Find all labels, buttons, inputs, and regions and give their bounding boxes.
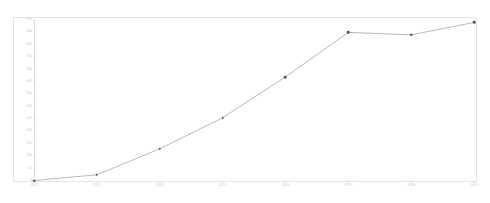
y-axis-tick-mark xyxy=(33,119,35,120)
y-axis-tick-label: 500 xyxy=(26,56,32,59)
y-axis-tick-mark xyxy=(33,94,35,95)
x-axis-tick-label: 2016 xyxy=(281,184,289,187)
x-axis-tick-label: 2018 xyxy=(407,184,415,187)
data-point-marker xyxy=(410,34,413,37)
x-axis-tick-label: 2017 xyxy=(344,184,352,187)
y-axis-tick-label: 50 xyxy=(28,167,32,170)
x-axis-tick-label: 2015 xyxy=(219,184,227,187)
x-axis-tick-label: 2012 xyxy=(30,184,38,187)
y-axis-tick-label: 250 xyxy=(26,117,32,120)
x-axis-tick-label: 2013 xyxy=(93,184,101,187)
y-axis-tick-label: 200 xyxy=(26,130,32,133)
y-axis-tick-label: 550 xyxy=(26,43,32,46)
data-point-marker xyxy=(158,148,161,151)
data-point-marker xyxy=(284,76,287,79)
y-axis-tick-label: 450 xyxy=(26,68,32,71)
y-axis-tick-mark xyxy=(33,81,35,82)
y-axis-tick-mark xyxy=(33,32,35,33)
chart-title xyxy=(0,0,490,7)
y-axis-tick-label: 300 xyxy=(26,105,32,108)
plot-area: 0501001502002503003504004505005506006502… xyxy=(34,20,474,181)
y-axis-tick-mark xyxy=(33,57,35,58)
y-axis-tick-mark xyxy=(33,156,35,157)
data-point-marker xyxy=(33,179,36,182)
y-axis-tick-label: 150 xyxy=(26,142,32,145)
y-axis-tick-mark xyxy=(33,106,35,107)
line-series xyxy=(34,20,474,181)
data-point-marker xyxy=(473,21,476,24)
y-axis-tick-mark xyxy=(33,69,35,70)
data-point-marker xyxy=(96,174,99,177)
chart-figure: 0501001502002503003504004505005506006502… xyxy=(0,0,490,203)
y-axis-tick-label: 600 xyxy=(26,31,32,34)
y-axis-tick-mark xyxy=(33,131,35,132)
x-axis-tick-label: 2019 xyxy=(470,184,478,187)
data-point-marker xyxy=(221,117,224,120)
y-axis-tick-label: 100 xyxy=(26,155,32,158)
y-axis-tick-label: 350 xyxy=(26,93,32,96)
y-axis-tick-mark xyxy=(33,143,35,144)
y-axis-tick-mark xyxy=(33,168,35,169)
y-axis-tick-label: 400 xyxy=(26,80,32,83)
y-axis-tick-mark xyxy=(33,20,35,21)
y-axis-tick-mark xyxy=(33,44,35,45)
data-point-marker xyxy=(347,31,350,34)
x-axis-tick-label: 2014 xyxy=(156,184,164,187)
y-axis-tick-label: 650 xyxy=(26,18,32,21)
